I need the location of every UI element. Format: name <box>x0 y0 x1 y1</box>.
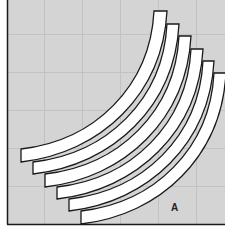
label-a: A <box>171 202 178 213</box>
strip-diagram: A <box>0 0 225 235</box>
